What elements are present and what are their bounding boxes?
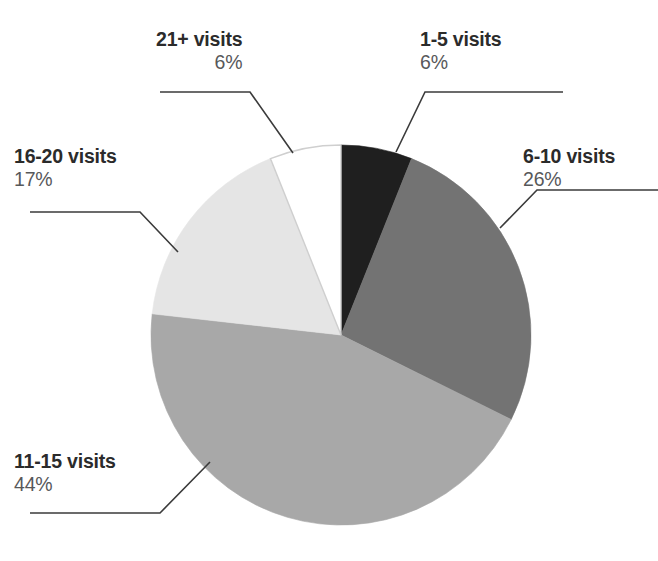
callout-label-6-10: 6-10 visits 26% — [523, 145, 615, 191]
callout-value-21plus: 6% — [156, 51, 242, 74]
callout-value-16-20: 17% — [14, 168, 117, 191]
pie-chart-figure: 21+ visits 6% 1-5 visits 6% 6-10 visits … — [0, 0, 658, 561]
callout-title-6-10: 6-10 visits — [523, 145, 615, 168]
callout-label-21plus: 21+ visits 6% — [156, 28, 242, 74]
callout-label-1-5: 1-5 visits 6% — [420, 28, 501, 74]
callout-value-1-5: 6% — [420, 51, 501, 74]
pie-slices — [151, 145, 531, 525]
callout-title-16-20: 16-20 visits — [14, 145, 117, 168]
leader-line-16-20 — [30, 212, 178, 252]
callout-value-6-10: 26% — [523, 168, 615, 191]
callout-title-1-5: 1-5 visits — [420, 28, 501, 51]
callout-label-16-20: 16-20 visits 17% — [14, 145, 117, 191]
callout-label-11-15: 11-15 visits 44% — [14, 450, 116, 496]
leader-line-6-10 — [500, 190, 658, 228]
leader-line-21plus — [160, 92, 293, 153]
leader-line-1-5 — [396, 92, 563, 152]
callout-title-21plus: 21+ visits — [156, 28, 242, 51]
callout-value-11-15: 44% — [14, 473, 116, 496]
callout-title-11-15: 11-15 visits — [14, 450, 116, 473]
